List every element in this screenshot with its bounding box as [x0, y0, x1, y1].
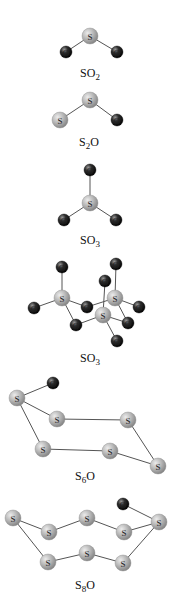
sulfur-atom-icon: S	[82, 92, 98, 108]
sulfur-atom-icon: S	[52, 112, 68, 128]
oxygen-atom-icon: O	[60, 46, 72, 58]
formula-label-so3-monomer: SO3	[80, 233, 100, 249]
sulfur-atom-icon: S	[35, 441, 51, 457]
atom-symbol: O	[113, 260, 120, 270]
atom-symbol: S	[87, 32, 92, 42]
sulfur-atom-icon: S	[95, 307, 111, 323]
atom-symbol: S	[156, 518, 161, 528]
sulfur-atom-icon: S	[115, 555, 131, 571]
formula-label-so2: SO2	[80, 66, 100, 82]
atom-symbol: S	[59, 294, 64, 304]
atom-symbol: S	[112, 294, 117, 304]
atom-symbol: S	[155, 462, 160, 472]
atom-symbol: S	[57, 116, 62, 126]
sulfur-atom-icon: S	[116, 524, 132, 540]
sulfur-atom-icon: S	[120, 412, 136, 428]
oxygen-atom-icon: O	[110, 214, 122, 226]
atom-symbol: O	[113, 216, 120, 226]
sulfur-atom-icon: S	[151, 514, 167, 530]
atom-symbol: S	[121, 528, 126, 538]
atom-symbol: S	[125, 416, 130, 426]
sulfur-atom-icon: S	[54, 290, 70, 306]
atom-symbol: O	[31, 304, 38, 314]
atom-symbol: S	[40, 445, 45, 455]
atom-symbol: S	[100, 311, 105, 321]
atom-symbol: O	[61, 216, 68, 226]
atom-symbol: S	[54, 415, 59, 425]
formula-label-s2o: S2O	[79, 135, 99, 151]
atom-symbol: O	[136, 303, 143, 313]
atom-symbol: S	[46, 528, 51, 538]
atom-symbol: O	[50, 379, 57, 389]
oxygen-atom-icon: O	[58, 214, 70, 226]
oxygen-atom-icon: O	[122, 317, 134, 329]
atom-symbol: O	[120, 500, 127, 510]
bond-line	[17, 398, 43, 449]
atom-symbol: S	[107, 447, 112, 457]
sulfur-atom-icon: S	[40, 554, 56, 570]
atom-symbol: S	[45, 558, 50, 568]
atom-symbol: O	[59, 263, 66, 273]
bond-line	[57, 419, 128, 420]
oxygen-atom-icon: O	[110, 258, 122, 270]
atom-symbol: O	[63, 48, 70, 58]
sulfur-atom-icon: S	[107, 290, 123, 306]
atom-symbol: O	[114, 116, 121, 126]
formula-label-s6o: S6O	[75, 469, 95, 485]
atom-symbol: O	[87, 166, 94, 176]
sulfur-atom-icon: S	[41, 524, 57, 540]
molecule-s6o: OSSSSSSS6O	[9, 377, 166, 485]
sulfur-atom-icon: S	[82, 195, 98, 211]
oxygen-atom-icon: O	[133, 301, 145, 313]
sulfur-atom-icon: S	[150, 458, 166, 474]
sulfur-atom-icon: S	[9, 390, 25, 406]
atom-symbol: S	[14, 394, 19, 404]
bond-line	[43, 449, 110, 451]
sulfur-oxide-structures-diagram: SOOSO2SSOS2OSOOOSO3SSSOOOOOOOOOSO3OSSSSS…	[0, 0, 171, 597]
atom-symbol: S	[87, 96, 92, 106]
molecule-s8o: OSSSSSSSSS8O	[5, 498, 167, 594]
oxygen-atom-icon: O	[70, 319, 82, 331]
molecule-so3-trimer: SSSOOOOOOOOOSO3	[28, 258, 145, 367]
atom-symbol: S	[87, 199, 92, 209]
formula-label-so3-trimer: SO3	[80, 351, 100, 367]
oxygen-atom-icon: O	[28, 302, 40, 314]
oxygen-atom-icon: O	[47, 377, 59, 389]
oxygen-atom-icon: O	[117, 498, 129, 510]
atom-symbol: O	[84, 303, 91, 313]
oxygen-atom-icon: O	[99, 275, 111, 287]
oxygen-atom-icon: O	[81, 301, 93, 313]
atom-symbol: O	[114, 48, 121, 58]
atom-symbol: O	[73, 321, 80, 331]
molecules-layer: SOOSO2SSOS2OSOOOSO3SSSOOOOOOOOOSO3OSSSSS…	[5, 28, 167, 594]
sulfur-atom-icon: S	[79, 510, 95, 526]
sulfur-atom-icon: S	[102, 443, 118, 459]
molecule-so2: SOOSO2	[60, 28, 123, 82]
oxygen-atom-icon: O	[84, 164, 96, 176]
atom-symbol: S	[10, 514, 15, 524]
atom-symbol: S	[84, 549, 89, 559]
oxygen-atom-icon: O	[56, 261, 68, 273]
molecule-so3-monomer: SOOOSO3	[58, 164, 122, 249]
oxygen-atom-icon: O	[111, 114, 123, 126]
atom-symbol: S	[120, 559, 125, 569]
atom-symbol: O	[125, 319, 132, 329]
atom-symbol: O	[114, 337, 121, 347]
oxygen-atom-icon: O	[111, 335, 123, 347]
sulfur-atom-icon: S	[5, 510, 21, 526]
sulfur-atom-icon: S	[79, 545, 95, 561]
bond-line	[128, 420, 158, 466]
molecule-s2o: SSOS2O	[52, 92, 123, 151]
atom-symbol: O	[102, 277, 109, 287]
sulfur-atom-icon: S	[49, 411, 65, 427]
formula-label-s8o: S8O	[75, 578, 95, 594]
atom-symbol: S	[84, 514, 89, 524]
oxygen-atom-icon: O	[111, 46, 123, 58]
sulfur-atom-icon: S	[82, 28, 98, 44]
